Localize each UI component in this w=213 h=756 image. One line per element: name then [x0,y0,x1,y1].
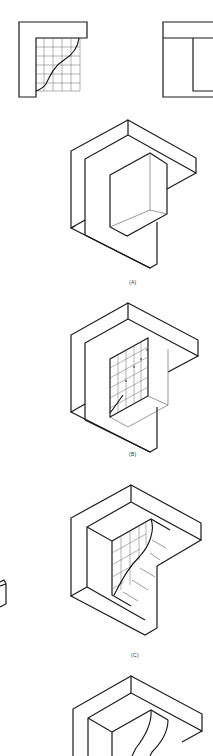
figure-canvas [0,0,213,756]
panel-d-drawing [73,676,202,756]
panel-c-label: (C) [131,652,139,658]
side-view [163,22,213,97]
panel-b-label: (B) [129,451,137,457]
panel-c-drawing [71,485,201,635]
panel-b-drawing [71,303,198,452]
partial-object [0,580,6,607]
panel-a-label: (A) [129,279,137,285]
front-view [19,22,87,97]
panel-a-drawing [71,120,196,268]
